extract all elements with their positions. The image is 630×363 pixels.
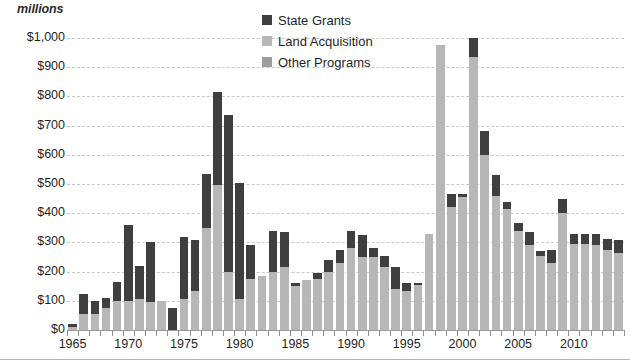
bar-segment-state_grants xyxy=(146,242,155,302)
legend-item[interactable]: Land Acquisition xyxy=(262,32,373,50)
bar-segment-state_grants xyxy=(246,245,255,279)
bar-segment-state_grants xyxy=(547,250,556,263)
x-axis-tick xyxy=(145,330,146,336)
bar-segment-state_grants xyxy=(135,266,144,300)
bar-segment-state_grants xyxy=(347,231,356,249)
bar-1978 xyxy=(213,92,222,330)
bar-segment-state_grants xyxy=(369,248,378,257)
bar-segment-land_acquisition xyxy=(258,276,267,330)
bar-2000 xyxy=(458,194,467,330)
x-axis-labels-group: 1965197019751980198519901995200020052010 xyxy=(0,337,630,359)
x-axis-tick xyxy=(134,330,135,336)
bar-1984 xyxy=(280,232,289,330)
bar-segment-land_acquisition xyxy=(291,286,300,330)
bar-1996 xyxy=(414,283,423,330)
bar-segment-land_acquisition xyxy=(603,250,612,330)
bar-1991 xyxy=(358,235,367,330)
bar-segment-land_acquisition xyxy=(302,280,311,330)
bar-segment-land_acquisition xyxy=(146,302,155,330)
bar-2012 xyxy=(592,234,601,330)
legend-item[interactable]: Other Programs xyxy=(262,53,373,71)
x-axis-tick xyxy=(346,330,347,336)
x-axis-tick xyxy=(78,330,79,336)
bar-segment-land_acquisition xyxy=(358,257,367,330)
x-axis-tick xyxy=(67,330,68,336)
bar-segment-land_acquisition xyxy=(558,213,567,330)
bar-2001 xyxy=(469,38,478,330)
x-axis-tick xyxy=(401,330,402,336)
x-axis-tick xyxy=(513,330,514,336)
x-axis-label: 2010 xyxy=(560,337,588,351)
bar-2011 xyxy=(581,234,590,330)
bar-segment-state_grants xyxy=(603,239,612,249)
legend-item[interactable]: State Grants xyxy=(262,11,373,29)
bar-segment-state_grants xyxy=(79,294,88,314)
x-axis-tick xyxy=(602,330,603,336)
bar-2010 xyxy=(570,234,579,330)
bar-segment-land_acquisition xyxy=(336,263,345,330)
x-axis-tick xyxy=(390,330,391,336)
bar-segment-land_acquisition xyxy=(313,279,322,330)
bar-segment-land_acquisition xyxy=(425,234,434,330)
y-axis-unit-caption: millions xyxy=(17,2,63,16)
y-axis-label: $900 xyxy=(5,59,65,73)
bar-segment-land_acquisition xyxy=(191,291,200,330)
x-axis-tick xyxy=(368,330,369,336)
x-axis-tick xyxy=(423,330,424,336)
bar-segment-state_grants xyxy=(269,231,278,272)
y-axis-label: $500 xyxy=(5,176,65,190)
bar-segment-land_acquisition xyxy=(525,245,534,330)
bar-1986 xyxy=(302,280,311,330)
bar-segment-land_acquisition xyxy=(536,256,545,330)
bar-segment-state_grants xyxy=(570,234,579,244)
bar-segment-land_acquisition xyxy=(402,291,411,330)
bar-segment-land_acquisition xyxy=(469,57,478,330)
x-axis-tick xyxy=(557,330,558,336)
bar-1976 xyxy=(191,240,200,331)
bar-1981 xyxy=(246,245,255,330)
bar-1994 xyxy=(391,267,400,330)
bar-segment-land_acquisition xyxy=(180,299,189,330)
y-axis-label: $0 xyxy=(5,322,65,336)
x-axis-tick xyxy=(546,330,547,336)
bar-1974 xyxy=(168,308,177,330)
chart-container: millions $1,000$900$800$700$600$500$400$… xyxy=(0,0,630,363)
bar-segment-state_grants xyxy=(168,308,177,330)
legend-swatch-icon xyxy=(262,36,272,46)
bar-2008 xyxy=(547,250,556,330)
x-axis-tick xyxy=(490,330,491,336)
bars-group xyxy=(67,38,624,330)
bar-1992 xyxy=(369,248,378,330)
bar-segment-state_grants xyxy=(91,301,100,314)
bar-segment-state_grants xyxy=(124,225,133,301)
bar-segment-state_grants xyxy=(558,199,567,214)
y-axis-label: $400 xyxy=(5,205,65,219)
legend-label: Land Acquisition xyxy=(278,34,373,49)
y-axis-label: $600 xyxy=(5,147,65,161)
bar-segment-land_acquisition xyxy=(102,308,111,330)
bar-segment-land_acquisition xyxy=(324,272,333,330)
x-axis-tick xyxy=(624,330,625,336)
bar-1990 xyxy=(347,231,356,330)
x-axis-tick xyxy=(568,330,569,336)
bar-segment-land_acquisition xyxy=(246,279,255,330)
bar-segment-state_grants xyxy=(480,131,489,154)
bar-segment-state_grants xyxy=(402,283,411,290)
bar-segment-state_grants xyxy=(492,175,501,195)
x-axis-tick xyxy=(301,330,302,336)
bar-segment-land_acquisition xyxy=(547,263,556,330)
bar-segment-land_acquisition xyxy=(91,314,100,330)
bar-segment-land_acquisition xyxy=(235,299,244,330)
bar-segment-land_acquisition xyxy=(224,272,233,330)
y-axis-label: $700 xyxy=(5,118,65,132)
bar-1971 xyxy=(135,266,144,330)
bar-1989 xyxy=(336,250,345,330)
bar-segment-state_grants xyxy=(391,267,400,289)
bar-2007 xyxy=(536,251,545,330)
bar-segment-state_grants xyxy=(469,38,478,57)
bar-segment-land_acquisition xyxy=(492,196,501,330)
bar-segment-land_acquisition xyxy=(202,228,211,330)
bar-segment-state_grants xyxy=(592,234,601,246)
x-axis-tick xyxy=(535,330,536,336)
x-axis-tick xyxy=(279,330,280,336)
